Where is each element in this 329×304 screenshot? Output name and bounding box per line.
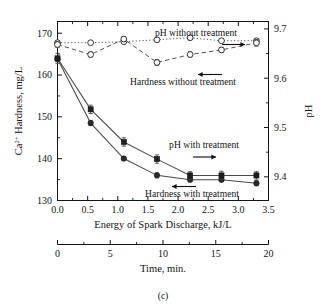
bottom-axis-title-time: Time, min. [140, 263, 186, 274]
bottom-axis-time: 05101520 [55, 240, 274, 259]
annotation-hardness-without-treatment: Hardness without treatment [130, 76, 236, 87]
bottom-tick-label: 2.0 [172, 204, 185, 215]
data-point [254, 173, 259, 178]
left-tick-label: 130 [37, 195, 52, 206]
left-tick-label: 150 [37, 111, 52, 122]
data-point [154, 37, 160, 43]
arrow-right-icon-ph-without [222, 42, 245, 47]
data-point [55, 42, 61, 48]
right-tick-label: 9.7 [274, 23, 287, 34]
time-tick-label: 20 [264, 248, 274, 259]
time-tick-label: 0 [55, 248, 60, 259]
data-point [121, 139, 126, 144]
time-tick-label: 15 [211, 248, 221, 259]
data-point [154, 60, 160, 66]
data-point [219, 47, 225, 53]
bottom-tick-label: 1.0 [112, 204, 125, 215]
data-point [188, 173, 193, 178]
annotation-ph-with-treatment: pH with treatment [169, 139, 239, 150]
data-point [187, 52, 193, 58]
time-tick-label: 5 [108, 248, 113, 259]
data-point [55, 56, 60, 61]
data-point [88, 120, 94, 126]
right-axis: 9.49.59.69.7 [264, 23, 287, 182]
figure-panel-c: 130140150160170Ca2+ Hardness, mg/L9.49.5… [0, 0, 329, 304]
right-tick-label: 9.4 [274, 171, 287, 182]
bottom-tick-label: 3.0 [232, 204, 245, 215]
data-point [121, 156, 127, 162]
data-point [154, 157, 159, 162]
data-point [88, 52, 94, 58]
data-point [219, 38, 225, 44]
bottom-tick-label: 0.0 [51, 204, 64, 215]
bottom-tick-label: 3.5 [262, 204, 275, 215]
right-tick-label: 9.5 [274, 122, 287, 133]
data-point [254, 40, 260, 46]
left-tick-label: 170 [37, 28, 52, 39]
data-point [88, 40, 94, 46]
left-axis-title: Ca2+ Hardness, mg/L [13, 67, 24, 155]
right-tick-label: 9.6 [274, 73, 287, 84]
bottom-axis-title-energy: Energy of Spark Discharge, kJ/L [94, 219, 232, 230]
annotation-ph-without-treatment: pH without treatment [155, 27, 237, 38]
left-tick-label: 140 [37, 153, 52, 164]
arrow-right-icon-ph-with [193, 155, 216, 160]
time-tick-label: 10 [158, 248, 168, 259]
svg-text:Ca2+ Hardness, mg/L: Ca2+ Hardness, mg/L [13, 67, 24, 155]
series-hardness-with-treatment [55, 53, 259, 179]
data-point [254, 180, 260, 186]
data-point [219, 173, 224, 178]
left-axis: 130140150160170 [37, 28, 62, 206]
annotation-hardness-with-treatment: Hardness with treatment [145, 188, 239, 199]
bottom-axis-energy: 0.00.51.01.52.02.53.03.5 [51, 22, 275, 216]
data-point [154, 173, 160, 179]
right-axis-title: pH [303, 104, 314, 117]
bottom-tick-label: 0.5 [81, 204, 94, 215]
data-point [121, 36, 127, 42]
data-point [88, 107, 93, 112]
chart-svg: 130140150160170Ca2+ Hardness, mg/L9.49.5… [0, 0, 329, 304]
figure-caption: (c) [158, 291, 169, 302]
bottom-tick-label: 1.5 [142, 204, 155, 215]
left-tick-label: 160 [37, 69, 52, 80]
bottom-tick-label: 2.5 [202, 204, 215, 215]
